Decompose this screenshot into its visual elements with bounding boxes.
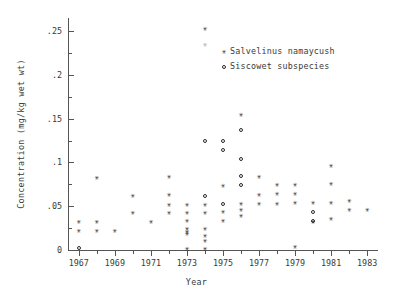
data-point	[239, 174, 243, 178]
data-point	[183, 227, 190, 236]
data-point	[183, 216, 190, 225]
y-tick-label: .05	[32, 202, 62, 210]
data-point	[201, 40, 208, 49]
x-tick-major	[187, 251, 188, 256]
data-point	[165, 200, 172, 209]
data-point	[220, 216, 227, 225]
data-point	[129, 208, 136, 217]
data-point	[256, 172, 263, 181]
y-tick-minor	[69, 53, 72, 54]
x-tick-label: 1975	[203, 259, 243, 267]
y-tick-minor	[69, 141, 72, 142]
data-point	[238, 110, 245, 119]
x-tick-major	[259, 251, 260, 256]
x-tick-minor	[277, 251, 278, 254]
data-point	[129, 191, 136, 200]
x-tick-label: 1983	[347, 259, 387, 267]
y-tick-major	[69, 75, 74, 76]
x-tick-major	[367, 251, 368, 256]
data-point	[220, 207, 227, 216]
x-tick-label: 1967	[59, 259, 99, 267]
y-tick-major	[69, 119, 74, 120]
data-point	[221, 148, 225, 152]
data-point	[346, 205, 353, 214]
data-point	[165, 190, 172, 199]
x-tick-major	[331, 251, 332, 256]
data-point	[292, 198, 299, 207]
x-tick-minor	[349, 251, 350, 254]
x-tick-minor	[205, 251, 206, 254]
x-tick-label: 1979	[275, 259, 315, 267]
data-point	[311, 219, 315, 223]
x-tick-minor	[169, 251, 170, 254]
data-point	[221, 139, 225, 143]
data-point	[183, 200, 190, 209]
data-point	[328, 198, 335, 207]
data-point	[364, 205, 371, 214]
data-point	[346, 196, 353, 205]
data-point	[201, 231, 208, 240]
data-point	[75, 217, 82, 226]
star-marker-icon	[218, 44, 230, 59]
data-point	[183, 224, 190, 233]
data-point	[256, 199, 263, 208]
data-point	[165, 172, 172, 181]
data-point	[93, 226, 100, 235]
data-point	[238, 205, 245, 214]
y-tick-minor	[69, 184, 72, 185]
legend-item: Salvelinus namaycush	[218, 44, 335, 59]
data-point	[201, 24, 208, 33]
x-tick-major	[295, 251, 296, 256]
x-tick-label: 1977	[239, 259, 279, 267]
y-tick-label: .25	[32, 27, 62, 35]
data-point	[203, 139, 207, 143]
data-point	[310, 217, 317, 226]
data-point	[239, 157, 243, 161]
data-point	[239, 128, 243, 132]
data-point	[93, 173, 100, 182]
x-tick-label: 1973	[167, 259, 207, 267]
x-tick-minor	[133, 251, 134, 254]
data-point	[292, 180, 299, 189]
data-point	[201, 200, 208, 209]
legend-label: Siscowet subspecies	[230, 59, 330, 74]
x-tick-major	[115, 251, 116, 256]
legend: Salvelinus namaycushSiscowet subspecies	[218, 44, 335, 74]
x-tick-minor	[313, 251, 314, 254]
data-point	[239, 183, 243, 187]
data-point	[75, 226, 82, 235]
circle-marker-icon	[218, 59, 230, 74]
y-axis-title: Concentration (mg/kg wet wt)	[12, 10, 30, 258]
y-tick-label: 0	[32, 246, 62, 254]
y-tick-label: .2	[32, 71, 62, 79]
data-point	[238, 211, 245, 220]
y-tick-minor	[69, 228, 72, 229]
x-tick-label: 1971	[131, 259, 171, 267]
data-point	[311, 210, 315, 214]
data-point	[256, 190, 263, 199]
data-point	[328, 161, 335, 170]
data-point	[201, 236, 208, 245]
legend-item: Siscowet subspecies	[218, 59, 335, 74]
x-axis-title: Year	[0, 277, 393, 287]
data-point	[310, 198, 317, 207]
y-tick-label: .1	[32, 158, 62, 166]
data-point	[165, 208, 172, 217]
data-point	[328, 179, 335, 188]
x-tick-minor	[97, 251, 98, 254]
scatter-plot-figure: Concentration (mg/kg wet wt) Year 0.05.1…	[0, 0, 393, 298]
y-tick-major	[69, 206, 74, 207]
data-point	[183, 229, 190, 238]
data-point	[328, 214, 335, 223]
data-point	[274, 180, 281, 189]
data-point	[238, 199, 245, 208]
y-tick-major	[69, 250, 74, 251]
data-point	[292, 189, 299, 198]
x-tick-major	[79, 251, 80, 256]
data-point	[220, 181, 227, 190]
legend-label: Salvelinus namaycush	[230, 44, 335, 59]
data-point	[93, 217, 100, 226]
data-point	[221, 202, 225, 206]
x-tick-label: 1981	[311, 259, 351, 267]
data-point	[111, 226, 118, 235]
